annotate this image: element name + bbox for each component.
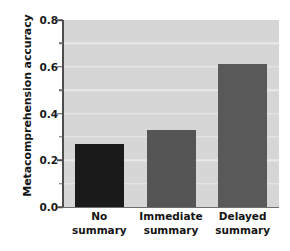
y-axis-title-text: Metacomprehension accuracy	[21, 14, 34, 196]
y-tick-label: 0.0	[39, 201, 58, 213]
y-major-tick	[57, 19, 63, 21]
y-tick-label: 0.2	[39, 154, 58, 166]
y-major-tick	[57, 66, 63, 68]
gridline	[64, 43, 279, 45]
x-tick-label: Nosummary	[72, 210, 127, 237]
y-minor-tick	[59, 183, 63, 185]
x-tick-label: Immediatesummary	[139, 210, 202, 237]
x-axis-tick-labels: NosummaryImmediatesummaryDelayedsummary	[64, 210, 279, 250]
bar[interactable]	[147, 130, 196, 207]
bar[interactable]	[218, 64, 267, 207]
y-tick-label: 0.4	[39, 108, 58, 120]
plot-area	[64, 20, 279, 207]
y-minor-tick	[59, 43, 63, 45]
y-tick-label: 0.6	[39, 61, 58, 73]
x-tick-label-line: summary	[72, 224, 127, 238]
y-tick-label: 0.8	[39, 14, 58, 26]
x-tick-label-line: No	[72, 210, 127, 224]
bar[interactable]	[75, 144, 124, 207]
y-major-tick	[57, 113, 63, 115]
y-axis-tick-labels: 0.00.20.40.60.8	[34, 0, 60, 251]
x-tick-label-line: summary	[139, 224, 202, 238]
x-axis-baseline	[62, 207, 279, 209]
y-minor-tick	[59, 136, 63, 138]
y-major-tick	[57, 160, 63, 162]
x-tick-label-line: summary	[215, 224, 270, 238]
x-tick-label-line: Immediate	[139, 210, 202, 224]
x-tick-label-line: Delayed	[215, 210, 270, 224]
y-minor-tick	[59, 89, 63, 91]
x-tick-label: Delayedsummary	[215, 210, 270, 237]
bar-chart-figure: Metacomprehension accuracy 0.00.20.40.60…	[0, 0, 290, 251]
